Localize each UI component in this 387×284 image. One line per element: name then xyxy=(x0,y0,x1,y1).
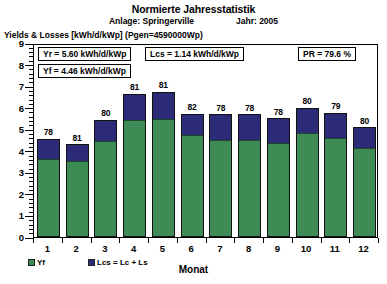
bar-segment-yf[interactable] xyxy=(354,148,375,236)
bar-value-label: 80 xyxy=(94,109,117,118)
bar-segment-lcs[interactable] xyxy=(209,114,232,237)
y-axis-tick-label: 1 xyxy=(0,212,24,222)
y-axis-tick xyxy=(25,151,33,152)
y-axis-tick-label: 8 xyxy=(0,61,24,71)
bar-segment-yf[interactable] xyxy=(153,119,174,236)
x-axis-tick-label: 4 xyxy=(131,244,136,254)
y-axis-tick xyxy=(25,44,33,45)
x-axis-tick xyxy=(378,238,379,243)
x-axis-tick-label: 12 xyxy=(358,244,369,254)
bar-value-label: 79 xyxy=(324,102,347,111)
bar-column[interactable]: 80 xyxy=(296,44,319,237)
x-axis-tick-label: 6 xyxy=(188,244,193,254)
bar-segment-yf[interactable] xyxy=(268,143,289,236)
y-axis-tick xyxy=(25,173,33,174)
y-axis-tick-label: 4 xyxy=(0,147,24,157)
legend-swatch-yf-icon xyxy=(28,259,35,266)
bar-segment-lcs[interactable] xyxy=(296,108,319,237)
x-axis-tick xyxy=(148,238,149,243)
bar-segment-yf[interactable] xyxy=(325,138,346,236)
bar-column[interactable]: 81 xyxy=(152,44,175,237)
y-axis-tick-label: 9 xyxy=(0,39,24,49)
bar-segment-yf[interactable] xyxy=(124,120,145,236)
bar-segment-lcs[interactable] xyxy=(238,114,261,237)
bar-segment-lcs[interactable] xyxy=(66,144,89,237)
bar-column[interactable]: 78 xyxy=(267,44,290,237)
y-axis-caption: Yields & Losses [kWh/d/kWp] (Pgen=459000… xyxy=(4,30,203,40)
info-box-lcs: Lcs = 1.14 kWh/d/kWp xyxy=(145,47,244,61)
y-axis-tick xyxy=(25,108,33,109)
x-axis-tick-label: 8 xyxy=(246,244,251,254)
bar-segment-lcs[interactable] xyxy=(267,118,290,237)
bar-segment-yf[interactable] xyxy=(38,159,59,236)
bar-segment-lcs[interactable] xyxy=(152,92,175,237)
bar-segment-yf[interactable] xyxy=(297,133,318,236)
x-axis-tick xyxy=(33,238,34,243)
bar-segment-yf[interactable] xyxy=(239,140,260,236)
bar-segment-yf[interactable] xyxy=(182,135,203,236)
y-axis-tick xyxy=(25,130,33,131)
bar-value-label: 78 xyxy=(37,128,60,137)
x-axis-tick-label: 1 xyxy=(45,244,50,254)
page-title: Normierte Jahresstatistik xyxy=(0,3,387,15)
legend-label-yf: Yf xyxy=(37,258,45,267)
x-axis-title: Monat xyxy=(0,264,387,275)
y-axis-tick xyxy=(25,65,33,66)
y-axis-tick-label: 7 xyxy=(0,82,24,92)
bar-column[interactable]: 78 xyxy=(238,44,261,237)
x-axis-tick xyxy=(321,238,322,243)
bar-segment-yf[interactable] xyxy=(67,161,88,236)
x-axis-tick-label: 10 xyxy=(301,244,312,254)
info-box-yf: Yf = 4.46 kWh/d/kWp xyxy=(38,64,131,78)
x-axis-labels: 123456789101112 xyxy=(33,244,378,258)
bar-value-label: 80 xyxy=(353,117,376,126)
x-axis-tick xyxy=(263,238,264,243)
info-box-yr: Yr = 5.60 kWh/d/kWp xyxy=(38,47,131,61)
bar-value-label: 78 xyxy=(209,104,232,113)
bar-segment-lcs[interactable] xyxy=(324,113,347,237)
y-axis-tick-label: 6 xyxy=(0,104,24,114)
x-axis-tick-label: 3 xyxy=(102,244,107,254)
bar-value-label: 81 xyxy=(152,81,175,90)
x-axis-tick-label: 11 xyxy=(330,244,340,254)
legend-label-lcs: Lcs = Lc + Ls xyxy=(97,258,148,267)
y-axis-tick xyxy=(25,238,33,239)
chart-page: Normierte Jahresstatistik Anlage: Spring… xyxy=(0,0,387,284)
bar-value-label: 80 xyxy=(296,97,319,106)
legend-item-yf: Yf xyxy=(28,258,45,270)
y-axis-tick xyxy=(25,87,33,88)
x-axis-ticks xyxy=(33,238,378,243)
x-axis-tick xyxy=(349,238,350,243)
bar-value-label: 78 xyxy=(267,108,290,117)
x-axis-tick-label: 5 xyxy=(160,244,165,254)
y-axis-labels: 0123456789 xyxy=(0,44,24,238)
bar-segment-yf[interactable] xyxy=(210,140,231,236)
bar-segment-lcs[interactable] xyxy=(353,127,376,237)
bar-column[interactable]: 78 xyxy=(209,44,232,237)
x-axis-tick xyxy=(119,238,120,243)
x-axis-tick xyxy=(91,238,92,243)
y-axis-tick-label: 5 xyxy=(0,125,24,135)
bar-column[interactable]: 80 xyxy=(353,44,376,237)
x-axis-tick-label: 7 xyxy=(217,244,222,254)
x-axis-tick xyxy=(62,238,63,243)
bar-segment-yf[interactable] xyxy=(95,141,116,236)
x-axis-tick-label: 9 xyxy=(275,244,280,254)
plant-label: Anlage: Springerville xyxy=(109,16,194,26)
y-axis-tick-label: 0 xyxy=(0,233,24,243)
x-axis-tick xyxy=(177,238,178,243)
bar-segment-lcs[interactable] xyxy=(94,120,117,237)
legend-item-lcs: Lcs = Lc + Ls xyxy=(88,258,148,270)
y-axis-tick-label: 3 xyxy=(0,169,24,179)
x-axis-tick xyxy=(292,238,293,243)
bar-value-label: 81 xyxy=(66,134,89,143)
y-axis-tick-label: 2 xyxy=(0,190,24,200)
x-axis-tick-label: 2 xyxy=(73,244,78,254)
year-label: Jahr: 2005 xyxy=(236,16,278,26)
bar-value-label: 81 xyxy=(123,83,146,92)
bar-segment-lcs[interactable] xyxy=(37,139,60,237)
bar-segment-lcs[interactable] xyxy=(181,114,204,238)
bar-column[interactable]: 79 xyxy=(324,44,347,237)
bar-column[interactable]: 82 xyxy=(181,44,204,237)
bar-segment-lcs[interactable] xyxy=(123,94,146,237)
